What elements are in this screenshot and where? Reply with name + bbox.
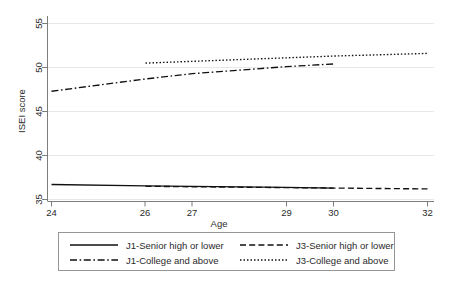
y-tick-label-45: 45 <box>33 106 44 117</box>
x-tick-label-30: 30 <box>328 207 339 218</box>
y-tick-label-55: 55 <box>33 18 44 29</box>
x-tick-label-32: 32 <box>422 207 433 218</box>
legend-label-j3-senior-high-or-lower: J3-Senior high or lower <box>296 240 394 251</box>
x-tick-label-26: 26 <box>140 207 151 218</box>
chart-figure: 55 50 45 40 35 ISEI score 24 26 27 29 30… <box>0 0 450 284</box>
legend-label-j1-college-and-above: J1-College and above <box>126 255 218 266</box>
x-tick-label-24: 24 <box>46 207 57 218</box>
y-tick-label-40: 40 <box>33 150 44 161</box>
isei-score-by-age-line-chart: 55 50 45 40 35 ISEI score 24 26 27 29 30… <box>0 0 450 284</box>
y-tick-label-50: 50 <box>33 62 44 73</box>
legend-label-j1-senior-high-or-lower: J1-Senior high or lower <box>126 240 224 251</box>
legend-label-j3-college-and-above: J3-College and above <box>296 255 388 266</box>
x-tick-label-29: 29 <box>281 207 292 218</box>
x-axis-title: Age <box>211 218 228 229</box>
y-axis-title: ISEI score <box>16 89 27 133</box>
y-tick-label-35: 35 <box>33 194 44 205</box>
x-tick-label-27: 27 <box>187 207 198 218</box>
